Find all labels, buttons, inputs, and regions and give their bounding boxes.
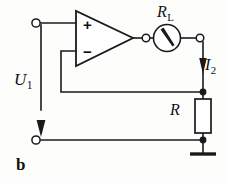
circuit-schematic — [0, 0, 227, 183]
label-u1-base: U — [14, 70, 26, 89]
meter-symbol — [154, 25, 181, 52]
terminal-input-bottom[interactable] — [32, 136, 40, 144]
opamp-inverting-sign: − — [83, 44, 92, 59]
voltage-arrow-u1 — [37, 120, 46, 137]
label-rl-base: R — [157, 3, 167, 20]
label-output-current: I2 — [205, 57, 216, 76]
junction-ground-node — [200, 137, 207, 144]
circuit-figure: + − U1 I2 RL R b — [0, 0, 227, 183]
terminal-input-top[interactable] — [32, 19, 40, 27]
terminal-opamp-output-node[interactable] — [142, 34, 150, 42]
label-i2-subscript: 2 — [210, 64, 216, 76]
label-input-voltage: U1 — [14, 71, 33, 92]
label-sense-resistor: R — [170, 102, 180, 118]
resistor-body — [195, 99, 211, 133]
opamp-noninverting-sign: + — [83, 17, 92, 32]
label-u1-subscript: 1 — [26, 79, 32, 92]
junction-feedback-node — [200, 89, 207, 96]
label-load-resistor: RL — [157, 4, 174, 23]
figure-label: b — [16, 156, 25, 173]
voltage-arrow-head — [37, 120, 46, 137]
label-rl-subscript: L — [167, 11, 174, 23]
terminal-output-right-node[interactable] — [196, 34, 204, 42]
